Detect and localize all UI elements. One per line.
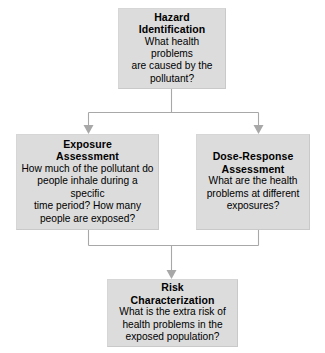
node-dose-response-assessment-body-line1: What are the health [209,175,298,187]
node-dose-response-assessment-title-line2: Assessment [222,163,285,175]
node-hazard-identification-title-line2: Identification [139,23,206,35]
node-risk-characterization: Risk Characterization What is the extra … [107,279,238,347]
node-exposure-assessment-body-line1: How much of the pollutant do [22,163,154,175]
node-exposure-assessment-body-line4: people are exposed? [40,213,135,225]
node-risk-characterization-title-line2: Characterization [131,294,215,306]
node-exposure-assessment-title-line1: Exposure [63,138,112,150]
node-risk-characterization-title-line1: Risk [161,281,184,293]
node-hazard-identification: Hazard Identification What health proble… [118,8,226,89]
node-dose-response-assessment: Dose-Response Assessment What are the he… [196,134,310,230]
arrowhead-to-exposure [84,125,94,134]
node-hazard-identification-body-line1: What health problems [123,36,221,61]
arrowhead-to-risk [167,270,177,279]
node-exposure-assessment-body-line2: people inhale during a specific [21,175,154,200]
node-risk-characterization-body-line1: What is the extra risk of [119,306,225,318]
node-dose-response-assessment-body-line2: problems at different [207,188,300,200]
risk-assessment-flowchart: Hazard Identification What health proble… [0,0,325,353]
node-hazard-identification-title-line1: Hazard [154,11,190,23]
node-dose-response-assessment-body-line3: exposures? [227,200,280,212]
node-hazard-identification-body-line3: pollutant? [150,73,194,85]
node-exposure-assessment-body-line3: time period? How many [34,200,141,212]
node-risk-characterization-body-line3: exposed population? [125,331,219,343]
node-hazard-identification-body-line2: are caused by the [132,60,213,72]
arrowhead-to-dose [254,125,264,134]
node-exposure-assessment: Exposure Assessment How much of the poll… [16,134,159,230]
node-risk-characterization-body-line2: health problems in the [122,319,222,331]
node-exposure-assessment-title-line2: Assessment [56,150,119,162]
node-dose-response-assessment-title-line1: Dose-Response [213,150,294,162]
